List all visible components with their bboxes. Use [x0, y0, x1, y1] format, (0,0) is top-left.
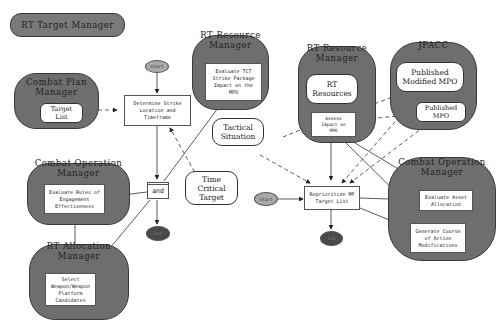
- activity-diagram: RT Target Manager Combat Plan Manager Ta…: [0, 0, 503, 321]
- end-node-2[interactable]: End: [320, 231, 343, 246]
- select-weapon-platform-node[interactable]: Select Weapon/Weapon Platform Candidates: [45, 273, 96, 306]
- published-mpo-node[interactable]: Published MPO: [416, 102, 466, 122]
- published-modified-mpo-node[interactable]: Published Modified MPO: [396, 62, 464, 92]
- rt-resources-node[interactable]: RT Resources: [306, 74, 358, 104]
- target-list-node[interactable]: Target List: [40, 103, 83, 123]
- start-node-2[interactable]: Start: [254, 192, 278, 206]
- evaluate-roe-effectiveness-node[interactable]: Evaluate Rules of Engagement Effectivene…: [44, 184, 105, 214]
- end-node[interactable]: End: [146, 226, 170, 241]
- evaluate-asset-allocation-node[interactable]: Evaluate Asset Allocation: [419, 190, 473, 211]
- time-critical-target-node[interactable]: Time Critical Target: [185, 171, 238, 205]
- generate-coa-modifications-node[interactable]: Generate Course of Action Modifications: [410, 223, 466, 253]
- rt-target-manager-label: RT Target Manager: [10, 13, 125, 37]
- reprioritize-mp-target-list-node[interactable]: Reprioritize MP Target List: [304, 186, 360, 210]
- start-node[interactable]: Start: [145, 60, 169, 73]
- evaluate-tct-strike-package-node[interactable]: Evaluate TCT Strike Package Impact on th…: [205, 63, 262, 101]
- tactical-situation-node[interactable]: Tactical Situation: [212, 118, 264, 146]
- assess-impact-on-mpo-node[interactable]: Assess Impact on MPO: [311, 112, 356, 137]
- and-join-node[interactable]: and: [147, 182, 169, 199]
- determine-strike-location-node[interactable]: Determine Strike Location and Timeframe: [124, 95, 191, 126]
